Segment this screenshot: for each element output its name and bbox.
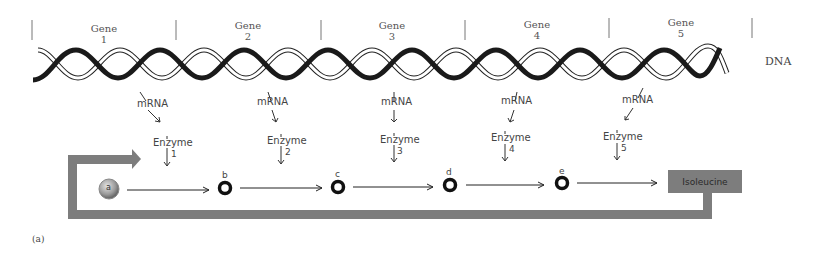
enzyme-label-4: Enzyme bbox=[491, 132, 531, 143]
gene-label-4: Gene4 bbox=[507, 19, 567, 41]
panel-label: (a) bbox=[32, 234, 44, 244]
enzyme-label-5: Enzyme bbox=[603, 131, 643, 142]
mrna-label-5: mRNA bbox=[622, 94, 653, 105]
mrna-label-1: mRNA bbox=[137, 98, 168, 109]
enzyme-number-5: 5 bbox=[621, 143, 627, 153]
dna-helix-icon bbox=[33, 46, 727, 80]
feedback-inhibition-arrow bbox=[68, 149, 712, 219]
gene-label-5: Gene5 bbox=[651, 17, 711, 39]
enzyme-number-1: 1 bbox=[171, 149, 177, 159]
dna-label: DNA bbox=[765, 55, 791, 68]
isoleucine-product-box: Isoleucine bbox=[668, 170, 742, 193]
enzyme-number-2: 2 bbox=[285, 147, 291, 157]
gene-label-1: Gene1 bbox=[74, 23, 134, 45]
mrna-label-3: mRNA bbox=[381, 96, 412, 107]
gene-label-2: Gene2 bbox=[218, 20, 278, 42]
mrna-label-4: mRNA bbox=[501, 95, 532, 106]
node-label-d: d bbox=[446, 167, 452, 177]
pathway-arrows bbox=[127, 180, 657, 193]
node-label-b: b bbox=[222, 170, 228, 180]
node-label-e: e bbox=[559, 166, 565, 176]
node-label-a: a bbox=[106, 183, 111, 192]
enzyme-label-3: Enzyme bbox=[380, 134, 420, 145]
enzyme-label-1: Enzyme bbox=[153, 137, 193, 148]
enzyme-label-2: Enzyme bbox=[267, 135, 307, 146]
node-label-c: c bbox=[335, 169, 340, 179]
gene-label-3: Gene3 bbox=[362, 20, 422, 42]
enzyme-number-4: 4 bbox=[509, 144, 515, 154]
mrna-label-2: mRNA bbox=[257, 96, 288, 107]
enzyme-number-3: 3 bbox=[397, 146, 403, 156]
